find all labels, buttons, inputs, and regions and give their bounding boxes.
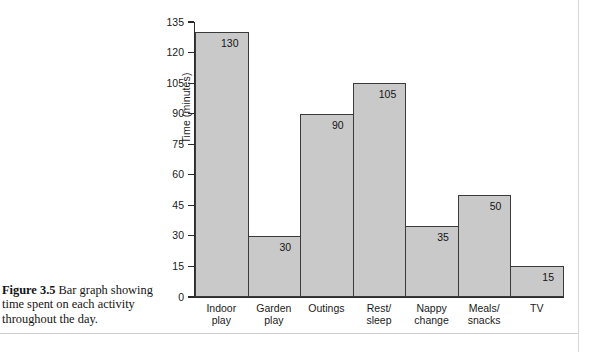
y-tick-mark <box>188 205 194 206</box>
y-tick-mark <box>188 144 194 145</box>
bar[interactable]: 35 <box>405 226 459 297</box>
bar-chart: Time (minutes) 0153045607590105120135 13… <box>138 6 578 336</box>
y-tick-label: 105 <box>138 77 184 89</box>
y-tick-mark <box>188 21 194 22</box>
x-tick-label: Gardenplay <box>248 302 301 326</box>
x-tick-label: Nappychange <box>405 302 458 326</box>
y-tick-label: 15 <box>138 260 184 272</box>
bar-value-label: 50 <box>490 201 502 212</box>
page-edge-rule <box>578 0 579 352</box>
y-tick-mark <box>188 113 194 114</box>
bar-value-label: 15 <box>542 272 554 283</box>
y-tick-mark <box>188 83 194 84</box>
x-tick-label-line: Indoor <box>195 302 248 314</box>
x-tick-label: Indoorplay <box>195 302 248 326</box>
figure-number: Figure 3.5 <box>2 283 55 297</box>
plot-area: 1303090105355015 <box>195 22 563 297</box>
y-tick-label: 120 <box>138 46 184 58</box>
x-tick-label-line: TV <box>510 302 563 314</box>
y-tick-mark <box>188 296 194 297</box>
x-tick-label-line: sleep <box>353 314 406 326</box>
bar-value-label: 130 <box>221 38 239 49</box>
x-tick-label: Outings <box>300 302 353 314</box>
bar[interactable]: 30 <box>248 236 302 297</box>
y-tick-mark <box>188 174 194 175</box>
bar[interactable]: 90 <box>300 114 354 297</box>
y-tick-mark <box>188 266 194 267</box>
x-tick-label-line: snacks <box>458 314 511 326</box>
x-tick-label-line: play <box>248 314 301 326</box>
y-tick-label: 30 <box>138 229 184 241</box>
x-tick-label: Meals/snacks <box>458 302 511 326</box>
bar-value-label: 90 <box>332 120 344 131</box>
x-tick-label-line: Rest/ <box>353 302 406 314</box>
bar-value-label: 35 <box>437 232 449 243</box>
bar[interactable]: 105 <box>353 83 407 297</box>
y-tick-label: 60 <box>138 168 184 180</box>
y-tick-mark <box>188 52 194 53</box>
x-tick-label-line: Nappy <box>405 302 458 314</box>
y-tick-label: 45 <box>138 199 184 211</box>
bar[interactable]: 130 <box>195 32 249 297</box>
x-tick-label-line: Garden <box>248 302 301 314</box>
x-tick-label-line: Outings <box>300 302 353 314</box>
x-tick-label-line: Meals/ <box>458 302 511 314</box>
y-tick-label: 75 <box>138 138 184 150</box>
x-tick-label: Rest/sleep <box>353 302 406 326</box>
x-tick-label: TV <box>510 302 563 314</box>
y-tick-label: 90 <box>138 107 184 119</box>
y-tick-mark <box>188 235 194 236</box>
y-tick-label: 0 <box>138 291 184 303</box>
y-tick-label: 135 <box>138 16 184 28</box>
bar[interactable]: 50 <box>458 195 512 297</box>
bar-value-label: 105 <box>379 89 397 100</box>
bar[interactable]: 15 <box>510 266 564 297</box>
x-tick-label-line: play <box>195 314 248 326</box>
x-tick-label-line: change <box>405 314 458 326</box>
bar-value-label: 30 <box>279 242 291 253</box>
